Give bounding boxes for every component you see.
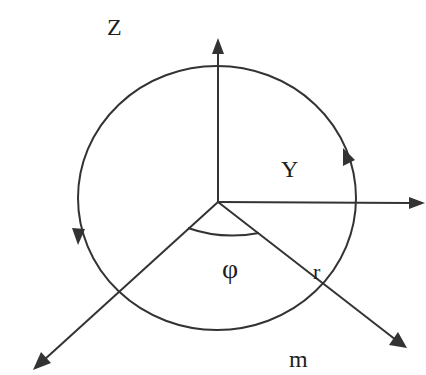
angle-label: φ bbox=[222, 253, 238, 284]
radius-arrowhead-icon bbox=[389, 332, 407, 348]
mass-label: m bbox=[289, 346, 308, 372]
lower-left-arrowhead-icon bbox=[33, 352, 51, 370]
rotation-arrow-up-icon bbox=[343, 148, 355, 166]
angle-arc bbox=[188, 228, 259, 236]
z-axis-label: Z bbox=[107, 14, 122, 40]
radius-label: r bbox=[313, 259, 321, 284]
lower-left-axis bbox=[33, 202, 218, 370]
z-axis bbox=[212, 38, 224, 202]
y-axis-arrowhead-icon bbox=[409, 197, 425, 209]
rotation-diagram: Z Y φ r m bbox=[0, 0, 426, 375]
y-axis bbox=[218, 197, 425, 209]
z-axis-arrowhead-icon bbox=[212, 38, 224, 54]
y-axis-label: Y bbox=[281, 156, 298, 182]
